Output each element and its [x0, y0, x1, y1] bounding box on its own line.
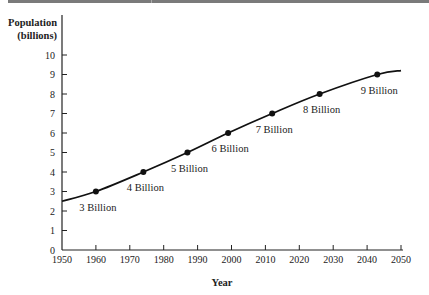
- x-tick-label: 1990: [188, 254, 208, 265]
- x-tick-label: 1950: [52, 254, 72, 265]
- milestone-dot: [184, 150, 190, 156]
- x-tick-label: 1970: [120, 254, 140, 265]
- x-tick-label: 2030: [323, 254, 343, 265]
- x-tick-label: 1960: [86, 254, 106, 265]
- milestone-dot: [93, 189, 99, 195]
- y-tick-label: 10: [45, 50, 55, 61]
- milestone-label: 8 Billion: [303, 104, 341, 115]
- milestone-label: 9 Billion: [361, 85, 399, 96]
- y-tick-label: 6: [50, 128, 55, 139]
- y-tick-label: 2: [50, 206, 55, 217]
- x-tick-label: 1980: [154, 254, 174, 265]
- x-tick-label: 2050: [391, 254, 411, 265]
- x-axis-ticks: 1950196019701980199020002010202020302040…: [52, 245, 411, 265]
- y-axis-label-line: Population: [8, 17, 57, 28]
- y-axis-label: Population(billions): [8, 17, 58, 42]
- x-tick-label: 2010: [255, 254, 275, 265]
- milestone-label: 4 Billion: [127, 182, 165, 193]
- milestone-dot: [225, 130, 231, 136]
- milestone-label: 6 Billion: [212, 143, 250, 154]
- x-tick-label: 2020: [289, 254, 309, 265]
- milestone-label: 3 Billion: [79, 202, 117, 213]
- y-axis-label-line: (billions): [17, 30, 57, 42]
- milestone-dot: [140, 169, 146, 175]
- y-tick-label: 9: [50, 69, 55, 80]
- y-tick-label: 3: [50, 186, 55, 197]
- milestone-points: 3 Billion4 Billion5 Billion6 Billion7 Bi…: [79, 72, 398, 213]
- x-axis-label: Year: [212, 277, 233, 288]
- milestone-dot: [374, 72, 380, 78]
- axes: [62, 15, 403, 250]
- milestone-label: 7 Billion: [256, 124, 294, 135]
- x-tick-label: 2040: [357, 254, 377, 265]
- population-curve: [62, 71, 401, 202]
- y-tick-label: 7: [50, 108, 55, 119]
- y-tick-label: 5: [50, 147, 55, 158]
- y-tick-label: 8: [50, 89, 55, 100]
- population-chart: Population(billions) 012345678910 195019…: [0, 0, 429, 295]
- milestone-label: 5 Billion: [171, 163, 209, 174]
- milestone-dot: [269, 111, 275, 117]
- x-tick-label: 2000: [222, 254, 242, 265]
- y-tick-label: 4: [50, 167, 55, 178]
- y-axis-ticks: 012345678910: [45, 50, 67, 256]
- milestone-dot: [317, 91, 323, 97]
- y-tick-label: 1: [50, 225, 55, 236]
